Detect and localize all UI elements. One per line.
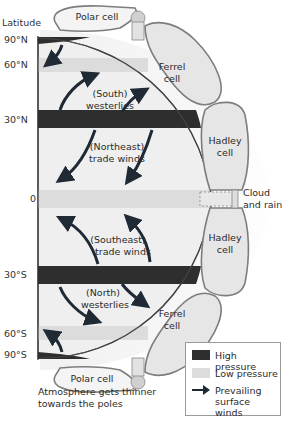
nh-trades-label-2: trade winds bbox=[89, 153, 145, 164]
cloud-rain-label-2: and rain bbox=[243, 199, 282, 210]
sh-trades-label-1: (Southeast) bbox=[90, 234, 145, 245]
legend-label-line-2: surface winds bbox=[215, 396, 250, 418]
ferrel-cell-south-label-1: Ferrel bbox=[159, 308, 186, 319]
low-pressure-swatch bbox=[192, 368, 210, 378]
tick-30n: 30°N bbox=[4, 114, 28, 125]
legend-label: Low pressure bbox=[215, 368, 278, 379]
ferrel-cell-north-label-2: cell bbox=[164, 73, 180, 84]
tick-0: 0 bbox=[30, 193, 36, 204]
arrow-right-icon bbox=[192, 385, 210, 395]
low-pressure-band-60n bbox=[38, 58, 148, 72]
high-pressure-band-30n bbox=[38, 110, 201, 128]
nh-trades-label-1: (Northeast) bbox=[90, 141, 144, 152]
sh-westerlies-label-1: (North) bbox=[86, 287, 120, 298]
nh-westerlies-label-2: westerlies bbox=[86, 100, 134, 111]
tick-60n: 60°N bbox=[4, 59, 28, 70]
tick-90n: 90°N bbox=[4, 34, 28, 45]
hadley-cell-north-label-1: Hadley bbox=[208, 135, 241, 146]
tick-60s: 60°S bbox=[4, 328, 27, 339]
cloud-icon-equator bbox=[200, 192, 235, 206]
tick-90s: 90°S bbox=[4, 349, 27, 360]
polar-cell-north-label: Polar cell bbox=[76, 11, 119, 22]
high-pressure-swatch bbox=[192, 350, 210, 360]
axis-title: Latitude bbox=[2, 17, 41, 28]
nh-westerlies-label-1: (South) bbox=[92, 88, 127, 99]
sh-trades-label-2: trade winds bbox=[95, 246, 151, 257]
legend-item-low-pressure: Low pressure bbox=[192, 368, 278, 379]
tick-30s: 30°S bbox=[4, 269, 27, 280]
polar-cell-south-label: Polar cell bbox=[71, 373, 114, 384]
legend-item-prevailing-winds: Prevailing surface winds bbox=[192, 385, 280, 418]
hadley-cell-south-label-2: cell bbox=[217, 244, 233, 255]
ferrel-cell-north-label-1: Ferrel bbox=[159, 61, 186, 72]
cloud-rain-label-1: Cloud bbox=[243, 187, 270, 198]
low-pressure-band-equator bbox=[38, 190, 212, 208]
hadley-cell-north-label-2: cell bbox=[217, 147, 233, 158]
ferrel-cell-south-label-2: cell bbox=[164, 320, 180, 331]
legend: High pressure Low pressure Prevailing su… bbox=[185, 342, 281, 416]
legend-label-line-1: Prevailing bbox=[215, 385, 262, 396]
caption: Atmosphere gets thinner towards the pole… bbox=[38, 386, 178, 410]
sh-westerlies-label-2: westerlies bbox=[81, 299, 129, 310]
high-pressure-band-30s bbox=[38, 266, 201, 284]
legend-label: Prevailing surface winds bbox=[215, 385, 280, 418]
hadley-cell-south-label-1: Hadley bbox=[208, 232, 241, 243]
